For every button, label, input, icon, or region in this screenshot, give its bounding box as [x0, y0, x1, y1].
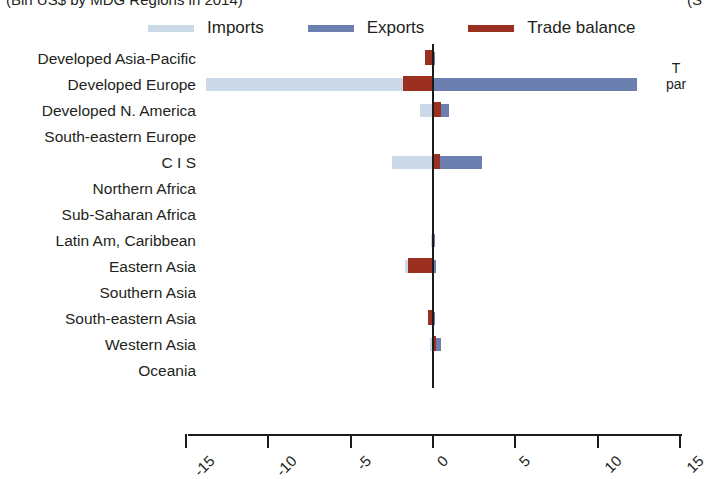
legend-swatch-exports	[308, 25, 354, 32]
legend-item-exports: Exports	[308, 18, 425, 38]
bar-exports	[433, 78, 637, 91]
chart-row: South-eastern Asia	[0, 306, 706, 332]
category-label: South-eastern Asia	[0, 306, 196, 332]
category-label: Sub-Saharan Africa	[0, 202, 196, 228]
x-axis-tick-label: -15	[190, 452, 217, 479]
bar-imports	[420, 104, 433, 117]
category-label: Developed N. America	[0, 98, 196, 124]
bar-trade-balance	[433, 102, 441, 117]
bar-trade-balance	[403, 76, 433, 91]
category-label: Eastern Asia	[0, 254, 196, 280]
chart-row: C I S	[0, 150, 706, 176]
x-axis-tick	[432, 434, 434, 448]
category-label: Southern Asia	[0, 280, 196, 306]
x-axis-tick-label: -10	[273, 452, 300, 479]
chart-subtitle: (Bln US$ by MDG Regions in 2014)	[6, 0, 243, 8]
x-axis-tick-label: 5	[516, 452, 534, 470]
chart-row: Developed Europe	[0, 72, 706, 98]
bar-imports	[206, 78, 433, 91]
chart-row: Southern Asia	[0, 280, 706, 306]
category-label: Western Asia	[0, 332, 196, 358]
chart-row: Developed Asia-Pacific	[0, 46, 706, 72]
legend-label-imports: Imports	[207, 18, 264, 38]
chart-plot-area: Developed Asia-PacificDeveloped EuropeDe…	[0, 44, 706, 396]
x-axis-tick	[267, 434, 269, 448]
x-axis-line	[188, 434, 682, 436]
x-axis-tick-label: 15	[683, 452, 706, 476]
chart-row: Developed N. America	[0, 98, 706, 124]
legend-swatch-imports	[148, 25, 194, 32]
chart-row: Sub-Saharan Africa	[0, 202, 706, 228]
chart-row: Northern Africa	[0, 176, 706, 202]
x-axis-tick	[597, 434, 599, 448]
category-label: Latin Am, Caribbean	[0, 228, 196, 254]
chart-row: Oceania	[0, 358, 706, 384]
x-axis-tick	[350, 434, 352, 448]
category-label: Northern Africa	[0, 176, 196, 202]
x-axis-tick-label: -5	[353, 452, 374, 473]
legend-item-imports: Imports	[148, 18, 264, 38]
category-label: Developed Europe	[0, 72, 196, 98]
legend-label-exports: Exports	[367, 18, 425, 38]
category-label: C I S	[0, 150, 196, 176]
chart-row: Latin Am, Caribbean	[0, 228, 706, 254]
legend-label-trade-balance: Trade balance	[527, 18, 635, 38]
x-axis-tick-label: 10	[601, 452, 625, 476]
bar-exports	[433, 156, 482, 169]
x-axis-tick-label: 0	[433, 452, 451, 470]
legend-swatch-trade-balance	[468, 25, 514, 32]
chart-row: Western Asia	[0, 332, 706, 358]
legend-item-trade-balance: Trade balance	[468, 18, 635, 38]
x-axis: -15-10-5051015	[0, 434, 706, 479]
category-label: South-eastern Europe	[0, 124, 196, 150]
category-label: Developed Asia-Pacific	[0, 46, 196, 72]
chart-legend: ImportsExportsTrade balance	[0, 14, 706, 42]
x-axis-tick	[185, 434, 187, 448]
x-axis-tick	[514, 434, 516, 448]
subtitle-band: (Bln US$ by MDG Regions in 2014) (S	[0, 0, 706, 11]
chart-row: South-eastern Europe	[0, 124, 706, 150]
category-label: Oceania	[0, 358, 196, 384]
bar-imports	[392, 156, 433, 169]
x-axis-tick	[679, 434, 681, 448]
chart-row: Eastern Asia	[0, 254, 706, 280]
bar-trade-balance	[408, 258, 433, 273]
zero-axis-line	[432, 44, 434, 388]
chart-subtitle-right: (S	[687, 0, 702, 8]
chart-rows: Developed Asia-PacificDeveloped EuropeDe…	[0, 44, 706, 384]
